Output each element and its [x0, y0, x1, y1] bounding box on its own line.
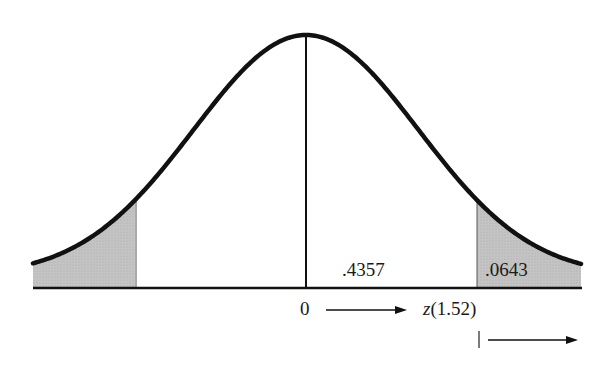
zero-label: 0	[300, 298, 310, 319]
center-area-label: .4357	[342, 259, 385, 280]
tail-arrow-head-icon	[566, 336, 578, 344]
z-value-label: z(1.52)	[422, 298, 476, 320]
normal-distribution-figure: .4357 .0643 0 z(1.52)	[0, 0, 610, 366]
z-number: (1.52)	[430, 298, 476, 320]
arrow-zero-to-z-head-icon	[395, 306, 407, 314]
tail-area-label: .0643	[485, 259, 528, 280]
